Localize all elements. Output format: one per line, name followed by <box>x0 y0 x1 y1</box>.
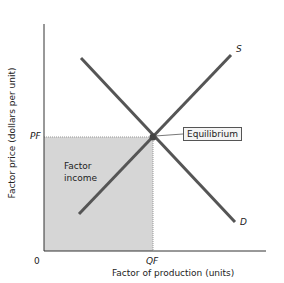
equilibrium-point <box>150 134 157 141</box>
factor-income-line2: income <box>64 172 114 184</box>
origin-label: 0 <box>34 256 40 266</box>
equilibrium-annotation: Equilibrium <box>183 127 242 141</box>
x-axis-label: Factor of production (units) <box>112 268 234 278</box>
supply-label: S <box>236 44 242 54</box>
factor-income-line1: Factor <box>64 160 114 172</box>
qf-tick-label: QF <box>146 256 158 266</box>
demand-label: D <box>240 217 247 227</box>
chart-canvas <box>0 0 284 283</box>
pf-tick-label: PF <box>30 131 41 141</box>
equilibrium-leader <box>155 134 183 136</box>
y-axis-label: Factor price (dollars per unit) <box>7 63 17 203</box>
factor-income-label: Factor income <box>64 160 114 184</box>
